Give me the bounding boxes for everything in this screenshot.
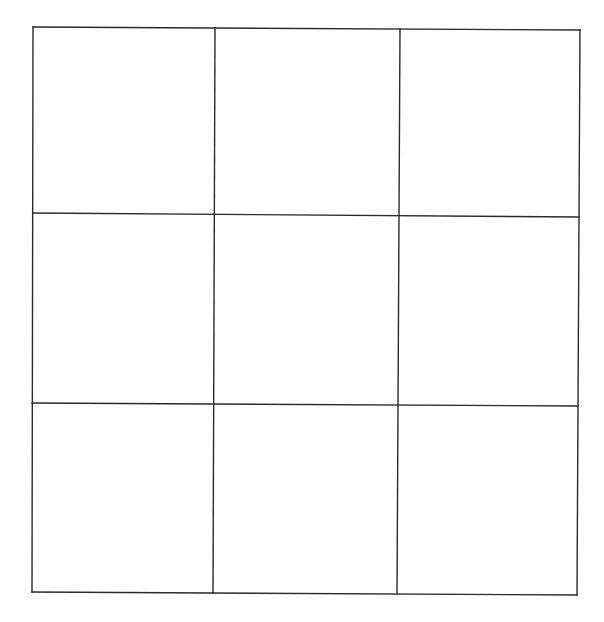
grid-cell-r0-c1[interactable] (214, 29, 399, 216)
grid-cell-r0-c0[interactable] (33, 29, 215, 216)
grid-cell-r2-c0[interactable] (33, 405, 215, 594)
grid-cell-r2-c1[interactable] (214, 405, 399, 594)
grid-cell-r0-c2[interactable] (399, 29, 579, 216)
grid-cell-area[interactable] (33, 215, 215, 405)
grid-cell-area[interactable] (399, 29, 579, 216)
grid-diagram (0, 0, 604, 622)
grid-cell-area[interactable] (214, 405, 399, 594)
grid-cell-area[interactable] (214, 215, 399, 405)
grid-cell-area[interactable] (399, 405, 579, 594)
grid-cell-area[interactable] (33, 405, 215, 594)
grid-cell-r1-c1[interactable] (214, 215, 399, 405)
grid-line-vertical-0 (32, 27, 33, 592)
grid-cells (33, 29, 579, 594)
grid-cell-r1-c0[interactable] (33, 215, 215, 405)
grid-cell-area[interactable] (33, 29, 215, 216)
grid-cell-area[interactable] (214, 29, 399, 216)
grid-cell-area[interactable] (399, 215, 579, 405)
grid-cell-r1-c2[interactable] (399, 215, 579, 405)
grid-cell-r2-c2[interactable] (399, 405, 579, 594)
